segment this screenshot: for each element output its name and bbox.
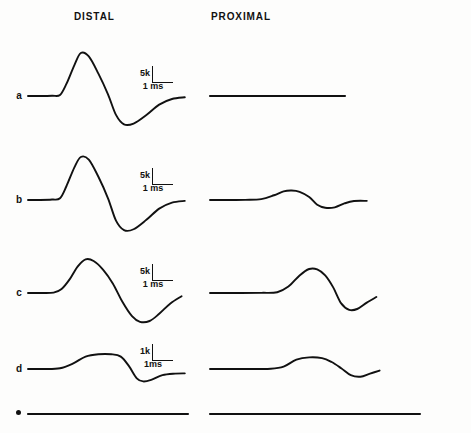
scale-bar-amplitude-label-d: 1k: [128, 346, 150, 357]
scale-bar-amplitude-label-a: 5k: [128, 68, 150, 79]
scale-bar-time-label-a: 1 ms: [133, 81, 173, 92]
row-label-c: c: [12, 287, 26, 298]
scale-bar-time-label-c: 1 ms: [133, 279, 173, 290]
row-label-d: d: [12, 363, 26, 374]
column-header-distal: DISTAL: [74, 11, 115, 22]
trace-c-proximal: [210, 268, 376, 310]
waveform-figure: DISTAL PROXIMAL a5k1 msb5k1 msc5k1 msd1k…: [0, 0, 471, 433]
scale-bar-b: 5k1 ms: [128, 168, 190, 202]
row-label-e: [16, 410, 21, 415]
trace-b-proximal: [210, 191, 367, 208]
scale-bar-amplitude-label-b: 5k: [128, 170, 150, 181]
scale-bar-c: 5k1 ms: [128, 264, 190, 298]
row-label-a: a: [12, 90, 26, 101]
row-label-b: b: [12, 194, 26, 205]
scale-bar-amplitude-label-c: 5k: [128, 266, 150, 277]
scale-bar-a: 5k1 ms: [128, 66, 190, 100]
scale-bar-time-label-d: 1ms: [133, 359, 173, 370]
trace-d-proximal: [210, 357, 380, 377]
column-header-proximal: PROXIMAL: [211, 11, 271, 22]
scale-bar-d: 1k1ms: [128, 344, 190, 378]
trace-canvas: [0, 0, 471, 433]
scale-bar-time-label-b: 1 ms: [133, 183, 173, 194]
